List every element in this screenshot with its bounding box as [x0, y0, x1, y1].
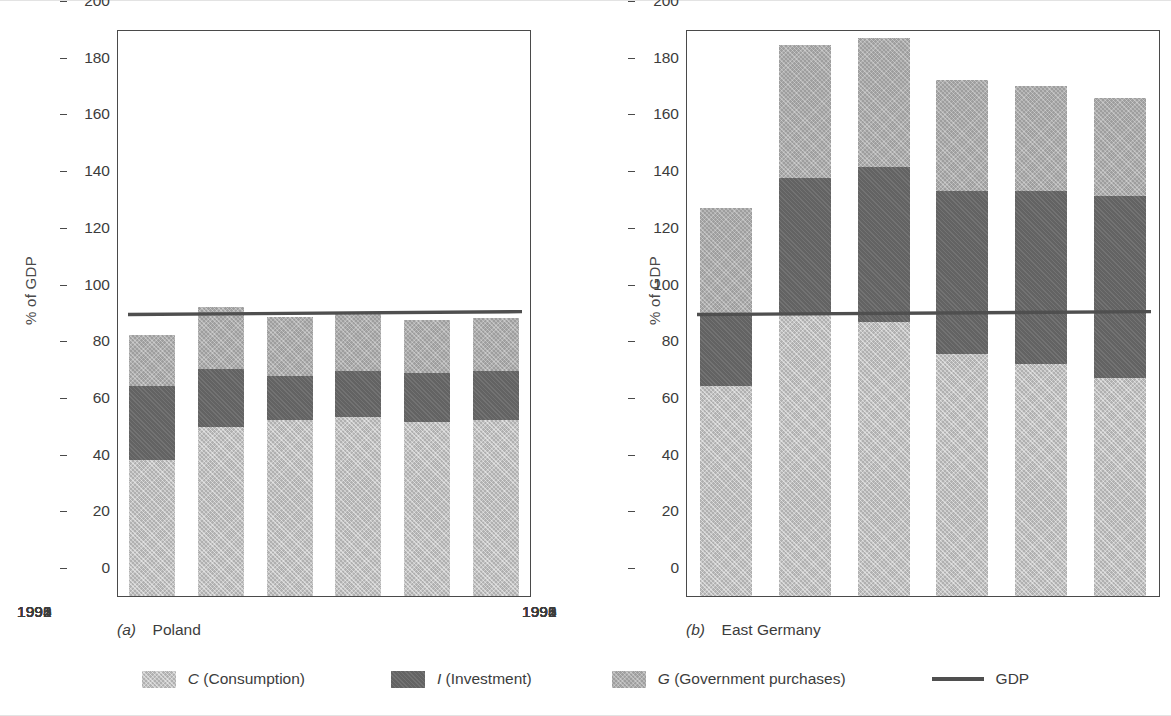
legend-gdp-line-marker [932, 677, 984, 681]
y-tick-label: 140 [84, 163, 110, 179]
y-axis-ticks-east-germany: 020406080100120140160180200 [628, 1, 693, 568]
y-tick-label: 0 [101, 560, 110, 576]
y-tick-label: 160 [84, 106, 110, 122]
y-tick-label: 120 [84, 220, 110, 236]
plot-area-poland [117, 30, 531, 597]
legend-government-label: G (Government purchases) [658, 670, 846, 688]
y-tick-mark [60, 285, 67, 286]
bar-segment-consumption [779, 314, 831, 596]
stacked-bar [1094, 98, 1146, 596]
subcaption-letter-east-germany: (b) [686, 621, 705, 638]
y-tick-label: 60 [93, 390, 110, 406]
bar-segment-government [267, 317, 313, 377]
y-tick-label: 60 [662, 390, 679, 406]
bar-segment-consumption [858, 322, 910, 596]
x-axis-category-label: 1995 [0, 603, 69, 621]
bar-segment-consumption [335, 417, 381, 596]
y-tick-mark [60, 398, 67, 399]
y-tick-mark [628, 341, 635, 342]
bar-segment-government [936, 80, 988, 191]
gdp-reference-line [687, 31, 1159, 598]
stacked-bar [267, 317, 313, 596]
bar-segment-government [858, 38, 910, 167]
y-tick-mark [628, 511, 635, 512]
bar-segment-investment [700, 313, 752, 387]
y-tick-mark [60, 1, 67, 2]
y-tick-mark [628, 171, 635, 172]
y-tick-label: 140 [653, 163, 679, 179]
legend-government-swatch [612, 671, 646, 688]
bar-segment-investment [404, 373, 450, 421]
legend-consumption[interactable]: C (Consumption) [142, 670, 305, 688]
y-tick-mark [628, 228, 635, 229]
legend-consumption-label: C (Consumption) [188, 670, 305, 688]
bar-segment-consumption [129, 460, 175, 596]
stacked-bar [404, 320, 450, 596]
subcaption-text-east-germany: East Germany [722, 621, 821, 638]
bar-segment-government [404, 320, 450, 374]
legend-government-symbol: G [658, 670, 670, 687]
y-tick-label: 40 [662, 447, 679, 463]
stacked-bar [1015, 86, 1067, 596]
legend-gdp[interactable]: GDP [932, 670, 1030, 688]
panel-poland: % of GDP 020406080100120140160180200 (a)… [0, 1, 586, 661]
bar-segment-consumption [936, 354, 988, 596]
bar-segment-investment [858, 167, 910, 323]
legend-investment-label: I (Investment) [437, 670, 532, 688]
bar-segment-consumption [404, 422, 450, 596]
bar-segment-consumption [1015, 364, 1067, 596]
bar-segment-government [1094, 98, 1146, 196]
bar-segment-investment [1015, 191, 1067, 364]
y-tick-mark [628, 58, 635, 59]
bar-segment-government [198, 307, 244, 369]
x-axis-category-label: 1995 [500, 603, 579, 621]
bar-segment-investment [267, 376, 313, 420]
y-tick-mark [628, 568, 635, 569]
y-tick-mark [60, 228, 67, 229]
y-tick-mark [628, 285, 635, 286]
chart-legend: C (Consumption)I (Investment)G (Governme… [0, 656, 1171, 702]
bar-segment-government [700, 208, 752, 313]
bar-segment-government [779, 45, 831, 178]
legend-gdp-label: GDP [996, 670, 1030, 688]
legend-investment-symbol: I [437, 670, 441, 687]
y-tick-mark [60, 58, 67, 59]
bar-segment-consumption [700, 386, 752, 596]
bar-segment-investment [1094, 196, 1146, 377]
legend-government[interactable]: G (Government purchases) [612, 670, 846, 688]
panel-east-germany: % of GDP 020406080100120140160180200 (b)… [500, 1, 1171, 661]
y-tick-label: 0 [670, 560, 679, 576]
y-tick-label: 40 [93, 447, 110, 463]
y-tick-mark [628, 455, 635, 456]
gdp-reference-line [118, 31, 530, 598]
y-tick-label: 100 [653, 277, 679, 293]
y-tick-label: 180 [84, 50, 110, 66]
stacked-bar [700, 208, 752, 596]
bar-segment-investment [779, 178, 831, 314]
bar-segment-consumption [198, 427, 244, 596]
legend-investment-swatch [391, 671, 425, 688]
subcaption-east-germany: (b) East Germany [686, 621, 821, 639]
bar-segment-government [335, 313, 381, 371]
bar-segment-government [1015, 86, 1067, 191]
plot-area-east-germany [686, 30, 1160, 597]
y-axis-title-poland: % of GDP [22, 256, 39, 325]
bar-segment-consumption [267, 420, 313, 596]
y-tick-label: 20 [662, 503, 679, 519]
stacked-bar [129, 335, 175, 596]
y-tick-label: 80 [93, 333, 110, 349]
y-tick-label: 160 [653, 106, 679, 122]
y-tick-mark [628, 398, 635, 399]
legend-investment[interactable]: I (Investment) [391, 670, 532, 688]
legend-consumption-swatch [142, 671, 176, 688]
legend-consumption-symbol: C [188, 670, 199, 687]
subcaption-letter-poland: (a) [117, 621, 136, 638]
bar-segment-investment [335, 371, 381, 418]
y-tick-mark [60, 455, 67, 456]
bar-segment-investment [129, 386, 175, 460]
y-tick-mark [628, 114, 635, 115]
y-tick-mark [60, 568, 67, 569]
y-tick-mark [628, 1, 635, 2]
y-tick-label: 120 [653, 220, 679, 236]
y-tick-mark [60, 114, 67, 115]
